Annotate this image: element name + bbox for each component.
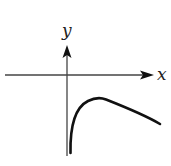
y-axis-label: y	[61, 20, 72, 40]
function-graph: x y	[0, 0, 171, 166]
x-axis: x	[5, 64, 167, 84]
x-axis-label: x	[157, 64, 167, 84]
function-curve	[70, 98, 160, 153]
